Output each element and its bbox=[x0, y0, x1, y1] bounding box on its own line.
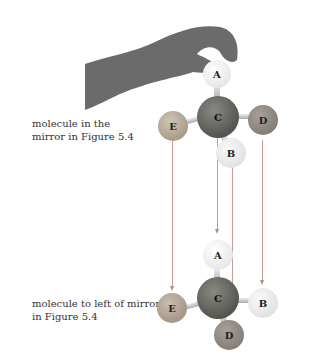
atom-e-top: E bbox=[158, 111, 188, 141]
atom-d-top: D bbox=[248, 105, 278, 135]
atom-a-top: A bbox=[203, 60, 231, 88]
atom-c-top: C bbox=[197, 96, 239, 138]
projection-line-e bbox=[172, 140, 173, 288]
atom-b-bottom: B bbox=[248, 288, 278, 318]
top-molecule-label: molecule in the mirror in Figure 5.4 bbox=[32, 117, 134, 143]
atom-c-bottom: C bbox=[197, 277, 239, 319]
projection-line-d bbox=[262, 140, 263, 280]
arrow-d bbox=[260, 280, 264, 285]
arrow-e bbox=[170, 286, 174, 291]
projection-line-c bbox=[232, 160, 233, 295]
bottom-molecule-label: molecule to left of mirror in Figure 5.4 bbox=[32, 297, 160, 323]
atom-d-bottom: D bbox=[214, 320, 244, 350]
arrow-a bbox=[215, 229, 219, 234]
atom-b-top: B bbox=[216, 138, 246, 168]
atom-e-bottom: E bbox=[157, 293, 187, 323]
atom-a-bottom: A bbox=[203, 240, 233, 270]
